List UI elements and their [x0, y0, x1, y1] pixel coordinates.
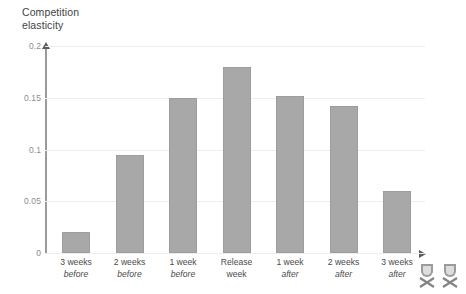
crest-icon: [440, 262, 460, 288]
bar: [383, 191, 411, 253]
x-axis-tick-label-line1: Release: [221, 257, 253, 267]
bar-chart: Competition elasticity 0.20.150.10.050 3…: [0, 0, 466, 294]
bar: [276, 96, 304, 253]
gridline: [45, 253, 425, 254]
x-axis-tick-label-line1: 1 week: [169, 257, 196, 267]
bar: [169, 98, 197, 253]
y-axis-tick-label: 0: [1, 248, 41, 258]
x-axis-tick-label-line1: 1 week: [276, 257, 303, 267]
bar: [62, 232, 90, 253]
crest-icon: [417, 262, 437, 288]
bar: [116, 155, 144, 253]
y-axis-tick-label: 0.05: [1, 196, 41, 206]
x-axis-tick-label-line1: 2 weeks: [328, 257, 360, 267]
y-axis-tick-labels: 0.20.150.10.050: [0, 0, 41, 294]
y-axis-tick-label: 0.1: [1, 145, 41, 155]
bar: [330, 106, 358, 253]
x-axis-tick-label-line1: 3 weeks: [60, 257, 92, 267]
x-axis-tick-label-line1: 2 weeks: [114, 257, 146, 267]
bar: [223, 67, 251, 253]
watermark-group: [417, 262, 463, 290]
y-axis-tick-label: 0.2: [1, 41, 41, 51]
y-axis-tick-label: 0.15: [1, 93, 41, 103]
x-axis-tick-label-line1: 3 weeks: [381, 257, 413, 267]
bars-group: [45, 46, 425, 253]
